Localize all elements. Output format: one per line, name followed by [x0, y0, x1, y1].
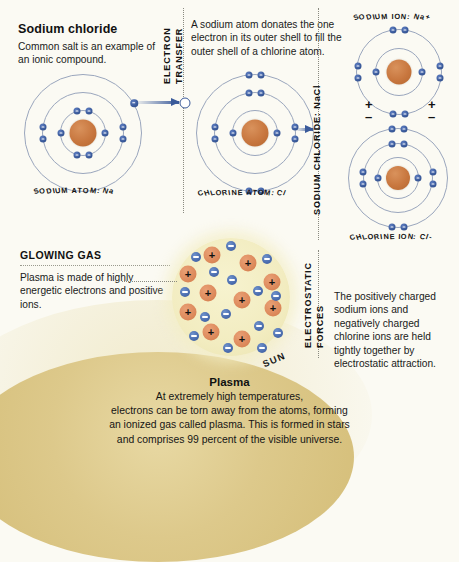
glowing-gas-rule — [20, 265, 170, 266]
chlorine-electron — [292, 136, 299, 143]
minus-icon — [193, 256, 198, 257]
minus-icon — [229, 279, 234, 280]
minus-icon — [228, 245, 233, 246]
plus-icon: + — [185, 307, 191, 318]
chlorine-electron — [230, 130, 237, 137]
chlorine-ion-label: CHLORINE ION: Cl- — [352, 232, 430, 241]
minus-icon — [256, 325, 261, 326]
plasma-positive-ion: + — [264, 274, 281, 291]
minus-icon — [211, 271, 216, 272]
glowing-gas-title: GLOWING GAS — [20, 249, 170, 261]
minus-icon — [182, 291, 187, 292]
compound-arrow — [296, 126, 313, 133]
chlorine-ion-electron — [389, 224, 396, 231]
minus-icon — [225, 347, 230, 348]
sodium-ion-electron — [402, 27, 409, 34]
plasma-electron — [221, 309, 231, 319]
chlorine-electron — [212, 136, 219, 143]
plasma-electron — [226, 241, 236, 251]
plasma-positive-ion: + — [180, 266, 197, 283]
chlorine-ion-electron — [375, 175, 382, 182]
glowing-gas-connector — [122, 281, 177, 282]
sodium-chloride-label: SODIUM CHLORIDE: NaCl — [312, 85, 322, 215]
plasma-positive-ion: + — [265, 300, 282, 317]
minus-icon — [275, 332, 280, 333]
plus-icon: + — [245, 258, 251, 269]
plasma-line-3: an ionized gas called plasma. This is fo… — [0, 418, 459, 432]
plasma-positive-ion: + — [240, 255, 257, 272]
chlorine-electron — [246, 72, 253, 79]
sodium-electron — [74, 108, 81, 115]
sodium-electron — [40, 136, 47, 143]
plasma-electron — [271, 291, 281, 301]
chlorine-ion-electron — [389, 126, 396, 133]
plasma-positive-ion: + — [204, 247, 221, 264]
electron-transfer-label-line1: ELECTRON — [162, 27, 172, 84]
plasma-title: Plasma — [0, 376, 459, 388]
plasma-electron — [254, 321, 264, 331]
chlorine-ion-electron — [415, 175, 422, 182]
chlorine-ion-nucleus — [386, 166, 410, 190]
plasma-electron — [227, 275, 237, 285]
plus-icon: + — [239, 334, 245, 345]
minus-icon — [259, 347, 264, 348]
chlorine-ion-diagram — [338, 118, 458, 238]
page-title: Sodium chloride — [18, 22, 168, 36]
plus-icon: + — [270, 303, 276, 314]
sodium-ion-diagram — [345, 18, 453, 126]
sodium-electron — [120, 124, 127, 131]
electrostatic-label-line2: FORCES — [315, 305, 325, 348]
plasma-electron — [257, 343, 267, 353]
chlorine-ion-electron — [401, 141, 408, 148]
sodium-atom-label: SODIUM ATOM: Na — [36, 186, 112, 195]
sodium-ion-electron — [437, 75, 444, 82]
sodium-ion-label: SODIUM ION: Na+ — [356, 12, 427, 21]
chlorine-ion-electron — [360, 169, 367, 176]
chlorine-electron — [212, 124, 219, 131]
minus-icon — [223, 313, 228, 314]
chlorine-ion-electron — [389, 141, 396, 148]
minus-icon — [255, 290, 260, 291]
plasma-electron — [200, 312, 210, 322]
plus-icon: + — [205, 288, 211, 299]
sodium-ion-nucleus — [387, 60, 412, 85]
electron-transfer-description: A sodium atom donates the one electron i… — [191, 18, 343, 58]
sodium-ion-electron — [373, 69, 380, 76]
sodium-ion-electron — [355, 63, 362, 70]
plasma-positive-ion: + — [203, 324, 220, 341]
minus-icon — [273, 295, 278, 296]
sodium-electron — [40, 124, 47, 131]
sodium-ion-electron — [390, 111, 397, 118]
chlorine-atom-label: CHLORINE ATOM: Cl — [200, 188, 284, 197]
sodium-ion-electron — [390, 27, 397, 34]
sodium-electron — [74, 152, 81, 159]
plasma-electron — [262, 254, 272, 264]
plasma-line-4: and comprises 99 percent of the visible … — [0, 433, 459, 447]
chlorine-nucleus — [242, 120, 269, 147]
sodium-electron — [86, 108, 93, 115]
sodium-ion-electron — [437, 63, 444, 70]
plasma-line-2: electrons can be torn away from the atom… — [0, 404, 459, 418]
sodium-electron — [102, 130, 109, 137]
plus-icon: + — [185, 269, 191, 280]
plasma-positive-ion: + — [234, 292, 251, 309]
plasma-positive-ion: + — [234, 331, 251, 348]
plasma-electron — [191, 252, 201, 262]
plasma-positive-ion: + — [200, 285, 217, 302]
minus-icon — [202, 316, 207, 317]
plasma-gas-circle: + + + + + + + + + + — [172, 238, 290, 356]
chlorine-ion-electron — [360, 181, 367, 188]
plus-icon: + — [239, 295, 245, 306]
plasma-caption: Plasma At extremely high temperatures, e… — [0, 376, 459, 447]
chlorine-electron — [258, 90, 265, 97]
chlorine-ion-electron — [430, 169, 437, 176]
plasma-electron — [253, 286, 263, 296]
plus-icon: + — [208, 327, 214, 338]
plasma-line-1: At extremely high temperatures, — [0, 390, 459, 404]
chlorine-ion-electron — [401, 126, 408, 133]
plasma-electron — [189, 331, 199, 341]
sodium-ion-electron — [355, 75, 362, 82]
chlorine-electron — [274, 130, 281, 137]
sodium-nucleus — [70, 120, 97, 147]
sodium-electron — [120, 136, 127, 143]
